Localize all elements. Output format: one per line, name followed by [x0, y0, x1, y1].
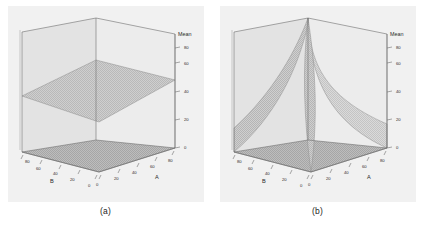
panel-a-surface-plot: 0 20 40 60 80 Mean 0 20 40 60 80 A: [0, 0, 211, 206]
panel-a-z-axis-label: Mean: [178, 31, 192, 37]
panel-b-y-tick-60: 60: [248, 166, 253, 171]
panel-a-y-tick-80: 80: [25, 159, 30, 164]
panel-b-z-tick-20: 20: [396, 117, 401, 122]
figure-container: 0 20 40 60 80 Mean 0 20 40 60 80 A: [0, 0, 423, 238]
panel-b-z-tick-80: 80: [396, 45, 401, 50]
panel-b-x-tick-80: 80: [380, 158, 385, 163]
panel-a-z-tick-40: 40: [184, 89, 189, 94]
panel-b-y-tick-0: 0: [300, 183, 303, 188]
panel-a-y-tick-40: 40: [53, 171, 58, 176]
panel-b-x-tick-20: 20: [326, 176, 331, 181]
panel-b-z-tick-40: 40: [396, 89, 401, 94]
panel-b-surface-plot: 0 20 40 60 80 Mean 0 20 40 60 80 A: [212, 0, 423, 206]
panel-b-z-axis-label: Mean: [390, 31, 404, 37]
panel-b-y-tick-40: 40: [265, 171, 270, 176]
panel-b-z-tick-60: 60: [396, 61, 401, 66]
panel-a-x-tick-20: 20: [114, 176, 119, 181]
panel-a-x-tick-60: 60: [150, 164, 155, 169]
panel-a-y-tick-60: 60: [36, 166, 41, 171]
panel-a-z-tick-20: 20: [184, 117, 189, 122]
panel-b-x-tick-0: 0: [308, 182, 311, 187]
panel-a-x-tick-0: 0: [96, 182, 99, 187]
panel-b-z-axis: 0 20 40 60 80 Mean: [387, 31, 404, 150]
panel-a-y-tick-0: 0: [88, 183, 91, 188]
panel-a: 0 20 40 60 80 Mean 0 20 40 60 80 A: [0, 0, 211, 238]
panel-b-x-tick-40: 40: [344, 170, 349, 175]
panel-b-y-tick-80: 80: [237, 159, 242, 164]
panel-a-y-axis-label: B: [50, 178, 54, 184]
panel-a-z-tick-80: 80: [184, 45, 189, 50]
panel-b-y-axis-label: B: [262, 178, 266, 184]
panel-a-x-axis-label: A: [155, 174, 159, 180]
panel-a-x-tick-80: 80: [168, 158, 173, 163]
panel-b-caption: (b): [212, 206, 423, 216]
panel-a-x-tick-40: 40: [132, 170, 137, 175]
panel-b-x-axis-label: A: [367, 174, 371, 180]
panel-a-z-tick-0: 0: [184, 145, 187, 150]
panel-b-z-tick-0: 0: [396, 145, 399, 150]
panel-b-x-tick-60: 60: [362, 164, 367, 169]
panel-a-caption: (a): [0, 206, 211, 216]
panel-a-y-tick-20: 20: [70, 177, 75, 182]
panel-b-y-tick-20: 20: [282, 177, 287, 182]
panel-b: 0 20 40 60 80 Mean 0 20 40 60 80 A: [212, 0, 423, 238]
panel-a-z-axis: 0 20 40 60 80 Mean: [175, 31, 192, 150]
panel-a-z-tick-60: 60: [184, 61, 189, 66]
